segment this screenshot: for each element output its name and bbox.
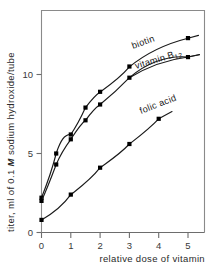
data-point-biotin-4 [98, 90, 102, 94]
x-tick-label-3: 3 [127, 240, 132, 251]
data-point-folic-0 [39, 218, 43, 222]
x-tick-labels: 0 1 2 3 4 5 [39, 240, 191, 251]
y-axis-title: titer, ml of 0.1 M sodium hydroxide/tube [5, 52, 16, 232]
series-label-folic-acid: folic acid [138, 93, 178, 116]
data-point-folic-1 [69, 193, 73, 197]
y-tick-labels: 0 5 10 [22, 69, 33, 238]
series-label-vitamin-b-text: vitamin B [134, 50, 176, 71]
chart-canvas: 0 1 2 3 4 5 0 5 10 relative dose of vita… [0, 0, 217, 265]
series-label-biotin: biotin [130, 33, 156, 51]
y-tick-label-10: 10 [22, 69, 33, 80]
plot-frame [42, 11, 205, 233]
data-point-folic-3 [127, 142, 131, 146]
y-tick-label-0: 0 [28, 227, 33, 238]
y-axis-title-before: titer, ml of 0.1 [5, 166, 16, 232]
y-tick-label-5: 5 [28, 148, 33, 159]
data-point-folic-2 [98, 166, 102, 170]
data-point-biotin-5 [127, 64, 131, 68]
data-point-b12-5 [127, 76, 131, 80]
x-tick-label-4: 4 [156, 240, 161, 251]
data-point-b12-6 [186, 55, 190, 59]
y-axis-title-after: sodium hydroxide/tube [5, 52, 16, 158]
data-point-biotin-6 [186, 36, 190, 40]
data-point-b12-4 [98, 102, 102, 106]
data-point-b12-0 [39, 199, 43, 203]
series-label-vitamin-b12: vitamin B12 [134, 47, 184, 72]
y-axis-ticks [37, 75, 42, 233]
x-axis-title: relative dose of vitamin [99, 253, 205, 264]
data-point-biotin-1 [54, 151, 58, 155]
series-label-vitamin-b-subscript: 12 [174, 51, 184, 60]
x-tick-label-1: 1 [68, 240, 73, 251]
data-point-biotin-3 [83, 106, 87, 110]
data-point-folic-4 [157, 117, 161, 121]
x-tick-label-2: 2 [97, 240, 102, 251]
series-folic-acid [39, 112, 172, 223]
data-point-b12-1 [54, 162, 58, 166]
data-point-b12-2 [69, 137, 73, 141]
data-point-b12-3 [83, 118, 87, 122]
x-tick-label-5: 5 [185, 240, 190, 251]
x-axis-ticks [42, 233, 189, 239]
data-point-biotin-2 [69, 132, 73, 136]
x-tick-label-0: 0 [39, 240, 44, 251]
chart-figure: 0 1 2 3 4 5 0 5 10 relative dose of vita… [0, 0, 217, 265]
